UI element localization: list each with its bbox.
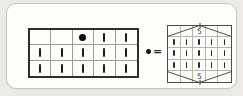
tally-tick xyxy=(211,39,213,45)
tally-tick xyxy=(39,64,41,73)
left-dot-grid xyxy=(28,28,139,78)
grid-cell xyxy=(206,71,219,82)
tally-tick xyxy=(211,62,213,68)
grid-cell xyxy=(218,71,231,82)
grid-cell xyxy=(116,45,137,60)
grid-cell xyxy=(181,60,194,71)
filled-dot xyxy=(79,34,86,41)
dot-icon xyxy=(146,49,151,54)
tally-tick xyxy=(186,62,188,68)
tally-tick xyxy=(61,48,63,57)
tally-tick xyxy=(224,50,226,56)
grid-cell xyxy=(193,60,206,71)
grid-cell xyxy=(206,60,219,71)
grid-cell xyxy=(206,26,219,37)
grid-cell xyxy=(94,61,115,76)
grid-cell xyxy=(30,61,51,76)
tally-tick xyxy=(125,64,127,73)
grid-cell xyxy=(181,48,194,59)
grid-cell xyxy=(73,61,94,76)
tally-tick xyxy=(39,48,41,57)
grid-cell xyxy=(218,60,231,71)
equivalence-symbol: = xyxy=(146,44,168,58)
grid-cell xyxy=(116,30,137,45)
tally-tick xyxy=(173,39,175,45)
grid-cell xyxy=(193,71,206,82)
tally-tick xyxy=(198,50,200,56)
tally-tick xyxy=(224,39,226,45)
diagram-card: = 5 5 xyxy=(6,3,237,89)
tally-tick xyxy=(103,48,105,57)
grid-cell xyxy=(73,45,94,60)
tally-tick xyxy=(125,48,127,57)
grid-cell xyxy=(51,61,72,76)
page-background: { "left_grid": { "columns": 5, "rows": 3… xyxy=(0,0,243,96)
grid-cell xyxy=(94,45,115,60)
grid-cell xyxy=(181,71,194,82)
grid-cell xyxy=(51,30,72,45)
tally-tick xyxy=(173,62,175,68)
grid-cell xyxy=(30,45,51,60)
grid-cell xyxy=(168,60,181,71)
tally-tick xyxy=(211,50,213,56)
tally-tick xyxy=(82,64,84,73)
grid-cell xyxy=(168,48,181,59)
grid-cell xyxy=(193,26,206,37)
grid-cell xyxy=(168,71,181,82)
tally-tick xyxy=(198,39,200,45)
grid-cell xyxy=(168,26,181,37)
grid-cell xyxy=(168,37,181,48)
grid-cell xyxy=(181,26,194,37)
tally-tick xyxy=(125,33,127,42)
grid-cell xyxy=(218,37,231,48)
grid-cell xyxy=(206,37,219,48)
tally-tick xyxy=(186,39,188,45)
tally-tick xyxy=(82,48,84,57)
tally-tick xyxy=(186,50,188,56)
grid-cell xyxy=(206,48,219,59)
grid-cell xyxy=(94,30,115,45)
grid-cell xyxy=(193,37,206,48)
tally-tick xyxy=(61,64,63,73)
grid-cell xyxy=(218,48,231,59)
right-tally-grid xyxy=(167,25,232,83)
tally-tick xyxy=(198,62,200,68)
grid-cell xyxy=(73,30,94,45)
tally-tick xyxy=(224,62,226,68)
grid-cell xyxy=(181,37,194,48)
equals-sign: = xyxy=(153,46,162,57)
grid-cell xyxy=(51,45,72,60)
grid-cell xyxy=(30,30,51,45)
grid-cell xyxy=(218,26,231,37)
grid-cell xyxy=(116,61,137,76)
tally-tick xyxy=(103,33,105,42)
tally-tick xyxy=(103,64,105,73)
grid-cell xyxy=(193,48,206,59)
tally-tick xyxy=(173,50,175,56)
